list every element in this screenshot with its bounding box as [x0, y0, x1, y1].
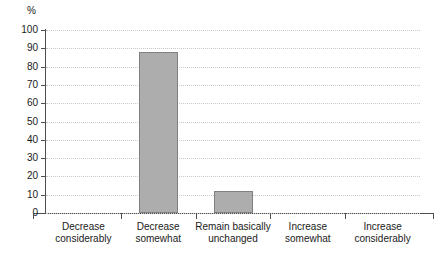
- x-axis-category-label: Decreaseconsiderably: [40, 221, 127, 245]
- y-axis-tick-label: 60: [8, 98, 38, 108]
- y-axis-tick-label: 100: [8, 25, 38, 35]
- x-axis-tick: [196, 213, 197, 219]
- bar-chart: % 0102030405060708090100 Decreaseconside…: [0, 0, 441, 265]
- bar-series: [46, 30, 420, 213]
- clipped-caption-remnant: [0, 256, 441, 265]
- x-axis-tick: [121, 213, 122, 219]
- y-axis-tick-label: 30: [8, 153, 38, 163]
- bar: [214, 191, 253, 213]
- x-axis-category-label: Increasesomewhat: [264, 221, 351, 245]
- y-axis-tick-label: 70: [8, 80, 38, 90]
- x-axis-category-label: Remain basicallyunchanged: [190, 221, 277, 245]
- y-axis-tick-label: 40: [8, 135, 38, 145]
- x-axis-category-label: Decreasesomewhat: [115, 221, 202, 245]
- x-axis-end-tick: [33, 213, 34, 219]
- x-axis-tick: [345, 213, 346, 219]
- x-axis-tick: [270, 213, 271, 219]
- y-axis-unit-label: %: [27, 6, 36, 16]
- y-axis-tick-label: 10: [8, 190, 38, 200]
- y-axis-tick-label: 20: [8, 171, 38, 181]
- x-axis-category-label: Increaseconsiderably: [339, 221, 426, 245]
- y-axis-tick: [41, 213, 46, 214]
- y-axis-tick-label: 50: [8, 117, 38, 127]
- y-axis-tick-label: 90: [8, 43, 38, 53]
- y-axis-tick-label: 80: [8, 62, 38, 72]
- bar: [139, 52, 178, 213]
- x-axis-end-tick: [433, 213, 434, 219]
- gridline: [46, 213, 420, 214]
